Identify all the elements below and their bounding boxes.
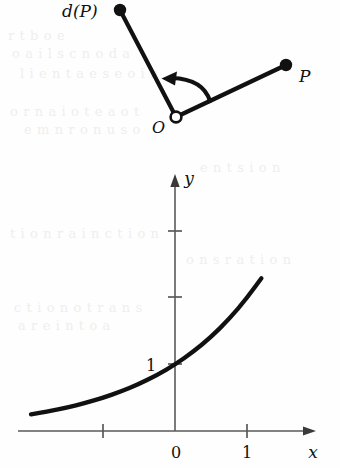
y-axis-arrowhead bbox=[170, 174, 179, 187]
segment-origin-to-source bbox=[176, 65, 286, 117]
x-origin-label: 0 bbox=[171, 443, 181, 462]
rotation-diagram: d(P) O P bbox=[62, 1, 311, 137]
source-point-dot bbox=[280, 59, 292, 71]
image-point-dot bbox=[114, 4, 126, 16]
figure-canvas: d(P) O P 1 0 1 x y bbox=[0, 0, 340, 468]
rotation-arrow-curve bbox=[172, 78, 210, 101]
x-unit-label: 1 bbox=[242, 443, 252, 462]
rotation-arrow-head bbox=[162, 72, 178, 86]
x-axis-label: x bbox=[308, 442, 318, 462]
origin-open-circle bbox=[171, 112, 182, 123]
label-image-point: d(P) bbox=[62, 1, 98, 21]
x-axis-arrowhead bbox=[303, 427, 316, 436]
label-source-point: P bbox=[298, 66, 311, 86]
segment-origin-to-image bbox=[120, 10, 176, 117]
y-axis-label: y bbox=[183, 168, 194, 188]
exponential-curve bbox=[31, 278, 261, 414]
exponential-graph: 1 0 1 x y bbox=[18, 168, 318, 462]
label-origin: O bbox=[152, 118, 165, 137]
figure-page: r t b o eo a i l s c n o d al i e n t a … bbox=[0, 0, 340, 468]
y-intercept-label: 1 bbox=[146, 356, 156, 375]
